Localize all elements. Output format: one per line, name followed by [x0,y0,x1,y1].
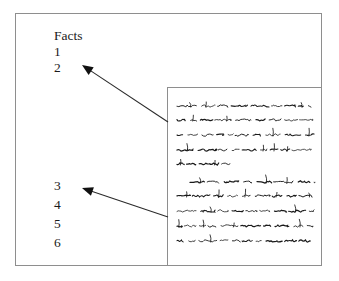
figure-canvas: Facts 1 2 3 4 5 6 [0,0,339,281]
document-text-lines [168,88,322,266]
document-text-line [177,235,310,242]
document-panel [167,87,322,266]
document-text-line [190,175,315,183]
fact-number-1: 1 [54,44,114,60]
facts-label-group-upper: Facts 1 2 [54,28,114,76]
document-text-line [177,189,312,197]
fact-number-6: 6 [54,233,114,252]
fact-number-2: 2 [54,60,114,76]
fact-number-3: 3 [54,176,114,195]
document-text-line [177,219,313,227]
facts-label-group-lower: 3 4 5 6 [54,176,114,252]
fact-number-5: 5 [54,214,114,233]
document-text-line [177,115,313,121]
document-text-line [177,144,312,152]
facts-heading: Facts [54,28,114,44]
document-text-line [177,128,314,136]
document-text-line [177,102,311,107]
document-text-line [177,205,314,212]
document-text-line [177,159,230,165]
fact-number-4: 4 [54,195,114,214]
